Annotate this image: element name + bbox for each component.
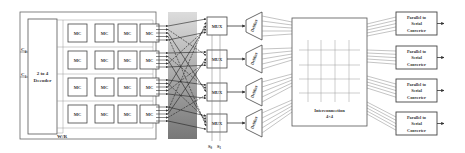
memory-cell: MC [95, 51, 114, 69]
demux: DeMux [246, 12, 262, 40]
demux: DeMux [246, 109, 262, 137]
memory-cell-label: MC [146, 31, 154, 36]
parallel-to-serial-converter: Parallel toSerialConverter [396, 46, 444, 69]
memory-cell-label: MC [101, 31, 109, 36]
memory-cell-label: MC [124, 112, 132, 117]
memory-cell: MC [118, 24, 137, 42]
memory-cell: MC [68, 78, 87, 96]
converter-label-1: Parallel to [407, 15, 426, 20]
memory-cell-label: MC [101, 85, 109, 90]
memory-cell: MC [118, 105, 137, 123]
memory-cell: MC [118, 78, 137, 96]
mux-label: MUX [212, 121, 223, 126]
mux-label: MUX [212, 57, 223, 62]
parallel-to-serial-converter: Parallel toSerialConverter [396, 112, 444, 135]
memory-cell: MC [68, 24, 87, 42]
mux: MUX [207, 50, 245, 68]
interconnection-size-label: 4×4 [326, 114, 334, 119]
memory-cell-label: MC [74, 31, 82, 36]
mux: MUX [207, 114, 245, 132]
architecture-diagram: 2 to 4 Decoder C0 C1 W/R MCMCMCMCMCMCMCM… [0, 0, 465, 153]
memory-cell-label: MC [101, 112, 109, 117]
memory-cell: MC [118, 51, 137, 69]
decoder-block [28, 19, 57, 134]
parallel-to-serial-converter: Parallel toSerialConverter [396, 12, 444, 35]
converter-label-1: Parallel to [407, 115, 426, 120]
converter-label-2: Serial [411, 88, 423, 93]
memory-cell-label: MC [124, 31, 132, 36]
memory-cell-label: MC [146, 85, 154, 90]
demux: DeMux [246, 78, 262, 106]
converter-label-2: Serial [411, 55, 423, 60]
parallel-to-serial-converter: Parallel toSerialConverter [396, 79, 444, 102]
mux-blocks: MUXMUXMUXMUX [207, 17, 245, 132]
memory-cell-label: MC [146, 58, 154, 63]
converter-label-3: Converter [407, 95, 426, 100]
interconnection-block: Interconnection 4×4 [292, 18, 367, 126]
memory-cell: MC [95, 105, 114, 123]
decoder-label-1: 2 to 4 [37, 71, 49, 76]
memory-cell: MC [68, 105, 87, 123]
select-s1-label: S1 [217, 144, 222, 150]
converter-label-2: Serial [411, 21, 423, 26]
converter-label-3: Converter [407, 128, 426, 133]
converter-label-3: Converter [407, 62, 426, 67]
mux-label: MUX [212, 24, 223, 29]
mux: MUX [207, 17, 245, 35]
converter-label-2: Serial [411, 121, 423, 126]
memory-cell-label: MC [124, 85, 132, 90]
decoder-label-2: Decoder [34, 78, 53, 83]
memory-cell-label: MC [146, 112, 154, 117]
wr-label: W/R [57, 134, 67, 139]
memory-cell: MC [95, 24, 114, 42]
demux-blocks: DeMuxDeMuxDeMuxDeMux [246, 12, 262, 137]
converter-label-1: Parallel to [407, 49, 426, 54]
demux: DeMux [246, 45, 262, 73]
memory-cell-label: MC [101, 58, 109, 63]
select-s0-label: S0 [208, 144, 213, 150]
memory-cell-label: MC [124, 58, 132, 63]
memory-cell: MC [68, 51, 87, 69]
memory-cell: MC [95, 78, 114, 96]
memory-cell-label: MC [74, 58, 82, 63]
memory-cell-label: MC [74, 85, 82, 90]
mux: MUX [207, 83, 245, 101]
converter-blocks: Parallel toSerialConverterParallel toSer… [396, 12, 444, 135]
converter-label-1: Parallel to [407, 82, 426, 87]
converter-label-3: Converter [407, 28, 426, 33]
memory-cell-label: MC [74, 112, 82, 117]
interconnection-label: Interconnection [314, 108, 345, 113]
crossbar-region [168, 12, 197, 139]
mux-label: MUX [212, 90, 223, 95]
